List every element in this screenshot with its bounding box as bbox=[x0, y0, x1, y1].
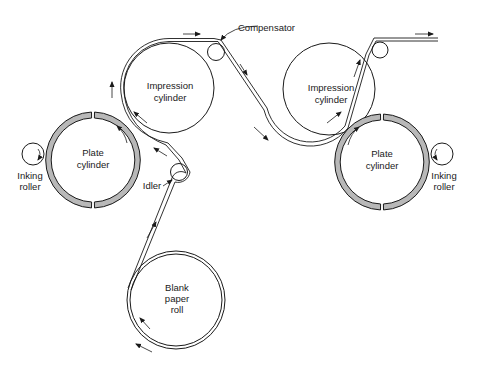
inking-roller-right-label-2: roller bbox=[433, 181, 454, 192]
flow-arrow-icon bbox=[134, 112, 147, 123]
plate-cylinder-left: Plate cylinder bbox=[46, 112, 141, 208]
inking-roller-left-label-2: roller bbox=[19, 181, 40, 192]
plate-cylinder-left-label-2: cylinder bbox=[77, 159, 110, 170]
flow-arrow-icon bbox=[140, 318, 150, 329]
flow-arrow-icon bbox=[147, 222, 156, 238]
inking-roller-left-label-1: Inking bbox=[17, 170, 42, 181]
blank-paper-roll-label-1: Blank bbox=[165, 282, 189, 293]
flow-arrow-icon bbox=[354, 60, 360, 77]
inking-roller-right-label-1: Inking bbox=[431, 170, 456, 181]
compensator-label: Compensator bbox=[238, 22, 295, 33]
impression-cylinder-right-label-2: cylinder bbox=[315, 94, 348, 105]
flow-arrow-icon bbox=[327, 112, 341, 123]
plate-cylinder-right-label-2: cylinder bbox=[366, 160, 399, 171]
blank-paper-roll-label-2: paper bbox=[165, 293, 189, 304]
rotation-arrow-icon bbox=[38, 149, 40, 160]
idler-label: Idler bbox=[143, 180, 161, 191]
impression-cylinder-left: Impression cylinder bbox=[124, 43, 214, 133]
flow-arrow-icon bbox=[154, 148, 167, 156]
blank-paper-roll-label-3: roll bbox=[171, 304, 184, 315]
impression-cylinder-left-label-1: Impression bbox=[147, 80, 193, 91]
impression-cylinder-left-label-2: cylinder bbox=[154, 92, 187, 103]
rotation-arrow-icon bbox=[435, 149, 437, 160]
plate-cylinder-left-label-1: Plate bbox=[82, 147, 104, 158]
idler: Idler bbox=[143, 164, 188, 192]
inking-roller-left: Inking roller bbox=[17, 143, 44, 192]
compensator: Compensator bbox=[208, 22, 296, 61]
plate-cylinder-right-label-1: Plate bbox=[371, 148, 393, 159]
flow-arrow-icon bbox=[254, 127, 268, 140]
flow-arrow-icon bbox=[136, 344, 152, 352]
inking-roller-right: Inking roller bbox=[431, 143, 457, 192]
impression-cylinder-right-label-1: Impression bbox=[308, 82, 354, 93]
printing-press-diagram: Plate cylinder Inking roller Impression … bbox=[0, 0, 478, 371]
blank-paper-roll: Blank paper roll bbox=[127, 251, 225, 349]
plate-cylinder-right: Plate cylinder bbox=[335, 114, 430, 210]
